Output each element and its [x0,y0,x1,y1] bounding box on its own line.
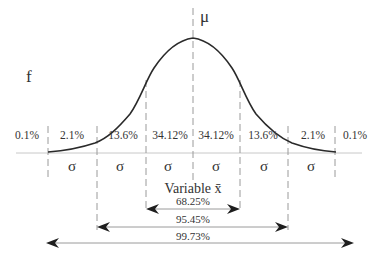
sigma-label: σ [68,159,76,174]
y-axis-label: f [26,68,32,85]
mean-label: μ [200,8,209,25]
range-label-2sigma: 95.45% [176,214,210,225]
sigma-label: σ [212,159,220,174]
sigma-label: σ [164,159,172,174]
region-pct-left-3sigma: 2.1% [60,130,84,142]
x-axis-label: Variable x̄ [164,182,221,196]
region-pct-left-tail: 0.1% [15,130,39,142]
region-pct-right-tail: 0.1% [343,130,367,142]
range-label-3sigma: 99.73% [176,231,210,242]
range-label-1sigma: 68.25% [176,196,210,207]
sigma-label: σ [307,159,315,174]
region-pct-right-2sigma: 13.6% [248,130,278,142]
sigma-label: σ [116,159,124,174]
sigma-label: σ [260,159,268,174]
bell-curve [48,38,336,152]
region-pct-right-1sigma: 34.12% [198,130,233,142]
region-pct-left-1sigma: 34.12% [152,130,187,142]
sigma-boundary-lines [48,80,335,230]
region-pct-right-3sigma: 2.1% [301,130,325,142]
region-pct-left-2sigma: 13.6% [108,130,138,142]
